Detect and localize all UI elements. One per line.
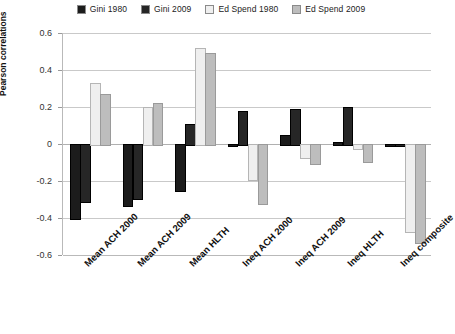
bar-face <box>123 144 134 207</box>
bar-ed-spend-2009[interactable] <box>153 103 162 144</box>
bar-face <box>175 144 186 192</box>
y-tick-label: 0.4 <box>22 65 52 75</box>
bar-face <box>205 53 216 146</box>
y-tick-mark <box>58 255 62 256</box>
bar-ed-spend-1980[interactable] <box>248 144 257 179</box>
y-tick-label: 0.2 <box>22 102 52 112</box>
bar-face <box>415 144 426 244</box>
bar-ed-spend-1980[interactable] <box>353 144 362 148</box>
legend-item-3[interactable]: Ed Spend 2009 <box>292 4 365 14</box>
bar-ed-spend-2009[interactable] <box>258 144 267 203</box>
bar-face <box>133 144 144 200</box>
bar-gini-2009[interactable] <box>238 111 247 144</box>
chart-legend: Gini 1980Gini 2009Ed Spend 1980Ed Spend … <box>0 4 442 14</box>
bar-face <box>300 144 311 159</box>
legend-label: Ed Spend 1980 <box>218 4 278 14</box>
y-tick-label: -0.6 <box>22 250 52 260</box>
legend-label: Ed Spend 2009 <box>305 4 365 14</box>
bar-face <box>248 144 259 181</box>
y-axis-title: Pearson correlations <box>0 11 8 96</box>
bar-ed-spend-1980[interactable] <box>405 144 414 231</box>
bar-gini-1980[interactable] <box>70 144 79 218</box>
bar-ed-spend-2009[interactable] <box>100 94 109 144</box>
bar-gini-2009[interactable] <box>343 107 352 144</box>
bar-ed-spend-1980[interactable] <box>195 48 204 144</box>
bar-gini-2009[interactable] <box>395 144 404 145</box>
legend-swatch-icon <box>205 5 214 14</box>
bar-face <box>353 144 364 150</box>
bar-gini-2009[interactable] <box>133 144 142 198</box>
legend-swatch-icon <box>141 5 150 14</box>
bar-face <box>280 135 291 146</box>
legend-item-2[interactable]: Ed Spend 1980 <box>205 4 278 14</box>
bar-face <box>363 144 374 163</box>
plot-area <box>62 33 430 255</box>
bar-group <box>63 33 116 255</box>
bar-ed-spend-2009[interactable] <box>415 144 424 242</box>
bar-face <box>185 124 196 146</box>
bar-group <box>378 33 431 255</box>
bar-ed-spend-1980[interactable] <box>300 144 309 157</box>
bar-gini-1980[interactable] <box>385 144 394 145</box>
bar-face <box>395 144 406 147</box>
bar-ed-spend-2009[interactable] <box>205 53 214 144</box>
bar-face <box>100 94 111 146</box>
bar-ed-spend-1980[interactable] <box>143 107 152 144</box>
legend-item-1[interactable]: Gini 2009 <box>141 4 191 14</box>
legend-label: Gini 1980 <box>90 4 127 14</box>
bar-ed-spend-1980[interactable] <box>90 83 99 144</box>
bar-face <box>238 111 249 146</box>
legend-swatch-icon <box>292 5 301 14</box>
bar-face <box>258 144 269 205</box>
bar-gini-1980[interactable] <box>280 135 289 144</box>
legend-swatch-icon <box>77 5 86 14</box>
y-tick-label: 0.6 <box>22 28 52 38</box>
bar-face <box>405 144 416 233</box>
y-tick-label: 0 <box>22 139 52 149</box>
bar-face <box>228 144 239 147</box>
bar-face <box>143 107 154 146</box>
bar-gini-1980[interactable] <box>333 142 342 144</box>
bar-face <box>385 144 396 147</box>
bar-face <box>310 144 321 165</box>
bar-gini-1980[interactable] <box>175 144 184 190</box>
bar-face <box>195 48 206 146</box>
bar-face <box>80 144 91 203</box>
bar-gini-2009[interactable] <box>185 124 194 144</box>
bar-face <box>70 144 81 220</box>
bar-face <box>343 107 354 146</box>
legend-label: Gini 2009 <box>154 4 191 14</box>
legend-item-0[interactable]: Gini 1980 <box>77 4 127 14</box>
bar-ed-spend-2009[interactable] <box>310 144 319 163</box>
bar-face <box>153 103 164 146</box>
bar-face <box>290 109 301 146</box>
y-tick-label: -0.4 <box>22 213 52 223</box>
bar-gini-2009[interactable] <box>80 144 89 201</box>
bar-face <box>333 142 344 146</box>
bar-ed-spend-2009[interactable] <box>363 144 372 161</box>
y-tick-label: -0.2 <box>22 176 52 186</box>
bar-group <box>221 33 274 255</box>
bar-gini-1980[interactable] <box>123 144 132 205</box>
bar-gini-2009[interactable] <box>290 109 299 144</box>
bar-gini-1980[interactable] <box>228 144 237 145</box>
bar-face <box>90 83 101 146</box>
